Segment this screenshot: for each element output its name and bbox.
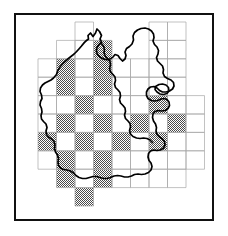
grid-cell-shaded xyxy=(94,77,113,95)
grid-cell-shaded xyxy=(75,132,94,150)
distribution-map-figure xyxy=(0,0,228,236)
grid-cell-shaded xyxy=(168,114,187,132)
map-svg xyxy=(0,0,228,236)
grid-cell-shaded xyxy=(94,151,113,169)
grid-cell-shaded xyxy=(94,114,113,132)
grid-cell-shaded xyxy=(75,96,94,114)
grid-cell-shaded xyxy=(112,132,131,150)
map-plot-area xyxy=(0,0,228,236)
grid-cell-shaded xyxy=(131,114,150,132)
grid-cell-shaded xyxy=(57,114,76,132)
grid-cell-shaded xyxy=(75,188,94,206)
grid-cell-shaded xyxy=(57,77,76,95)
